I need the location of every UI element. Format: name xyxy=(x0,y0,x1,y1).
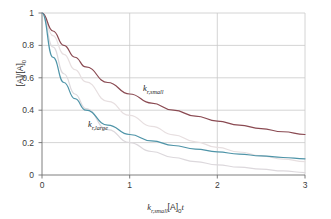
y-axis-title: [A]/[A]0 xyxy=(9,43,23,103)
xtick-label: 3 xyxy=(295,180,315,190)
x-axis-title-conc: [A] xyxy=(168,202,178,212)
curve-second-reference xyxy=(42,13,305,162)
annotation-large-sub: r,large xyxy=(92,124,108,131)
y-axis-title-main: [A]/[A] xyxy=(15,63,25,86)
y-axis-title-sub: 0 xyxy=(20,60,27,63)
xtick-label: 0 xyxy=(32,180,52,190)
curve-k-r-large xyxy=(42,13,305,159)
curve-annotation-k-small: kr,small xyxy=(143,83,163,95)
annotation-small-sub: r,small xyxy=(147,88,164,95)
x-axis-title-k-sub: r,small xyxy=(151,207,168,214)
x-axis-title-t: t xyxy=(181,202,183,212)
curve-first-order-reference xyxy=(42,13,305,173)
gridlines xyxy=(42,13,305,175)
tick-marks xyxy=(39,13,306,179)
data-curves xyxy=(42,13,305,173)
ytick-label: 0 xyxy=(10,170,34,180)
ytick-label: 1 xyxy=(10,8,34,18)
ytick-label: 0.4 xyxy=(10,105,34,115)
xtick-label: 2 xyxy=(207,180,227,190)
curve-k-r-small xyxy=(42,13,305,135)
chart-figure: .gl{stroke:#c9c9c9;stroke-width:0.8;} .a… xyxy=(0,0,331,219)
x-axis-title: kr,small[A]0t xyxy=(0,196,331,214)
axis-lines xyxy=(42,13,305,175)
ytick-label: 0.2 xyxy=(10,138,34,148)
xtick-label: 1 xyxy=(120,180,140,190)
curve-annotation-k-large: kr,large xyxy=(88,119,108,131)
